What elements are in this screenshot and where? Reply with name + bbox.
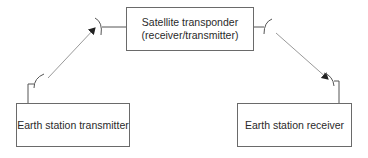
uplink-arrow (48, 28, 95, 78)
satellite-label-line2: (receiver/transmitter) (142, 29, 239, 42)
satellite-receive-antenna-icon (95, 18, 126, 35)
satellite-transmit-antenna-icon (254, 19, 272, 34)
earth-station-transmitter-box: Earth station transmitter (16, 103, 130, 147)
satellite-label-line1: Satellite transponder (142, 16, 239, 29)
earth-station-receiver-box: Earth station receiver (237, 103, 352, 147)
downlink-arrow (276, 33, 328, 79)
receiver-label: Earth station receiver (245, 119, 344, 132)
transmitter-antenna-icon (28, 74, 44, 103)
transmitter-label: Earth station transmitter (17, 119, 128, 132)
satellite-transponder-box: Satellite transponder (receiver/transmit… (126, 7, 254, 51)
